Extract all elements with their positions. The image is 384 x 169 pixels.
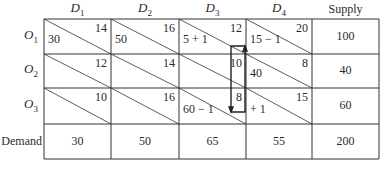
row-header: O3	[0, 96, 38, 114]
cell-cost: 12	[77, 56, 107, 71]
row-header-main: O	[24, 96, 33, 111]
cell-cost: 15	[278, 90, 308, 105]
cell-allocation: 30	[48, 32, 60, 47]
column-header: D4	[246, 0, 312, 18]
demand-value: 65	[179, 134, 246, 149]
supply-header: Supply	[312, 2, 379, 17]
cell-cost: 10	[77, 90, 107, 105]
supply-value: 60	[312, 98, 379, 113]
row-header-main: O	[24, 61, 33, 76]
demand-label: Demand	[0, 134, 42, 149]
column-header-main: D	[206, 0, 215, 15]
column-header-sub: 4	[281, 8, 286, 18]
cell-cost: 14	[145, 56, 175, 71]
demand-value: 50	[111, 134, 179, 149]
column-header: D3	[179, 0, 246, 18]
cell-allocation: 5 + 1	[183, 32, 208, 47]
column-header: D1	[44, 0, 111, 18]
column-header: D2	[111, 0, 179, 18]
cell-cost: 8	[212, 90, 242, 105]
column-header-main: D	[71, 0, 80, 15]
row-header-sub: 3	[34, 104, 39, 114]
demand-value: 55	[246, 134, 312, 149]
cell-cost: 14	[77, 21, 107, 36]
row-header: O2	[0, 61, 38, 79]
cell-cost: 12	[212, 21, 242, 36]
column-header-sub: 2	[147, 8, 152, 18]
cell-allocation: 15 − 1	[250, 32, 281, 47]
cell-cost: 20	[278, 21, 308, 36]
column-header-sub: 3	[215, 8, 220, 18]
cell-cost: 16	[145, 21, 175, 36]
demand-value: 30	[44, 134, 111, 149]
supply-value: 40	[312, 63, 379, 78]
supply-value: 100	[312, 29, 379, 44]
cell-cost: 16	[145, 90, 175, 105]
total-value: 200	[312, 134, 379, 149]
row-header-sub: 2	[34, 69, 39, 79]
arrow-head-down	[229, 107, 233, 112]
cell-allocation: + 1	[250, 102, 266, 117]
cell-allocation: 50	[115, 32, 127, 47]
cell-cost: 8	[278, 56, 308, 71]
row-header-sub: 1	[34, 34, 39, 44]
column-header-sub: 1	[80, 8, 85, 18]
row-header-main: O	[24, 27, 33, 42]
row-header: O1	[0, 27, 38, 45]
cell-cost: 10	[212, 56, 242, 71]
cell-allocation: 60 − 1	[183, 102, 214, 117]
cell-allocation: 40	[250, 66, 262, 81]
